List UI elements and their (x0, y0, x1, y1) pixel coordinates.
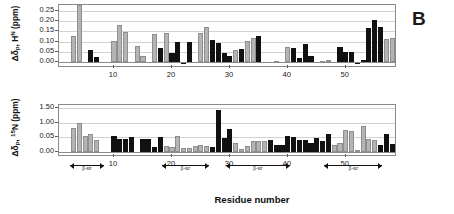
x-tick-mark (229, 154, 230, 157)
bar (314, 138, 319, 152)
bar (274, 145, 279, 152)
y-tick-label: 1.50 (2, 103, 54, 111)
bar (169, 53, 174, 62)
y-tick-label: 0.00 (2, 147, 54, 155)
bar-series-n15 (59, 105, 395, 155)
bar (88, 134, 93, 152)
y-tick-mark (55, 30, 58, 31)
y-tick-label: 0.25 (2, 6, 54, 14)
x-tick-mark (229, 65, 230, 68)
arrow-head-right-icon (205, 163, 209, 169)
bar (158, 137, 163, 152)
bar (210, 40, 215, 62)
x-tick-mark (171, 65, 172, 68)
y-tick-mark (55, 122, 58, 123)
y-tick-label: 0.10 (2, 37, 54, 45)
bar (117, 139, 122, 152)
bar (361, 126, 366, 152)
bar (366, 28, 371, 62)
x-tick-label: 40 (283, 70, 291, 79)
bar (251, 141, 256, 152)
y-tick-label: 0.05 (2, 47, 54, 55)
plot-area-n15 (58, 104, 396, 156)
arrow-head-left-icon (162, 163, 166, 169)
x-axis-title: Residue number (58, 194, 446, 205)
x-tick-label: 50 (341, 159, 349, 168)
plot-area-hn (58, 4, 396, 67)
bar (303, 140, 308, 152)
secondary-structure-label: β-str (180, 166, 191, 171)
bar (204, 27, 209, 62)
y-tick-label: 0.05 (2, 132, 54, 140)
arrow-head-left-icon (324, 163, 328, 169)
bar (123, 139, 128, 152)
bar (343, 130, 348, 152)
bar (372, 20, 377, 62)
chart-hn-perturbation: Δδp, HN (ppm) 0.250.200.150.100.050.00 1… (0, 4, 404, 96)
x-tick-mark (287, 65, 288, 68)
bar (308, 143, 313, 152)
bar (222, 138, 227, 152)
x-tick-label: 10 (109, 159, 117, 168)
bar (268, 140, 273, 152)
bar (285, 136, 290, 152)
x-tick-label: 20 (167, 70, 175, 79)
panel-label-b: B (412, 8, 426, 30)
x-tick-label: 20 (167, 159, 175, 168)
bar (349, 52, 354, 62)
y-tick-label: 0.15 (2, 26, 54, 34)
bar (135, 46, 140, 62)
secondary-structure-label: β-str (348, 166, 359, 171)
bar (222, 53, 227, 62)
bar (111, 41, 116, 62)
x-tick-label: 30 (225, 159, 233, 168)
y-tick-label: 1.00 (2, 118, 54, 126)
bar (152, 34, 157, 62)
x-tick-mark (171, 154, 172, 157)
bar (216, 110, 221, 152)
bar (175, 42, 180, 62)
bar (158, 48, 163, 62)
bar (320, 141, 325, 152)
bar (111, 136, 116, 152)
y-tick-label: 0.20 (2, 16, 54, 24)
bar (88, 50, 93, 62)
bar (279, 145, 284, 152)
bar (378, 145, 383, 152)
bar (291, 137, 296, 152)
bar (77, 123, 82, 152)
bar (372, 140, 377, 152)
bar (332, 145, 337, 152)
bar (123, 32, 128, 62)
y-tick-label: 0.00 (2, 57, 54, 65)
y-tick-mark (55, 41, 58, 42)
secondary-structure-arrow: β-str (324, 162, 382, 171)
bar (378, 27, 383, 62)
y-tick-mark (55, 151, 58, 152)
bar (337, 47, 342, 62)
bar (343, 52, 348, 62)
bar (233, 143, 238, 152)
bar (285, 47, 290, 62)
bar (216, 43, 221, 62)
bar (291, 48, 296, 62)
y-tick-mark (55, 61, 58, 62)
bar (140, 139, 145, 152)
y-tick-mark (55, 51, 58, 52)
y-tick-mark (55, 136, 58, 137)
bar (129, 137, 134, 152)
bar (83, 136, 88, 152)
bar (256, 36, 261, 62)
arrow-head-right-icon (100, 163, 104, 169)
x-tick-mark (113, 65, 114, 68)
x-tick-label: 40 (283, 159, 291, 168)
bar (227, 129, 232, 153)
y-tick-mark (55, 10, 58, 11)
bar (245, 41, 250, 62)
bar (187, 42, 192, 62)
bar (251, 38, 256, 62)
bar (384, 134, 389, 152)
bar (390, 38, 395, 62)
bar (146, 139, 151, 152)
bar (337, 143, 342, 152)
